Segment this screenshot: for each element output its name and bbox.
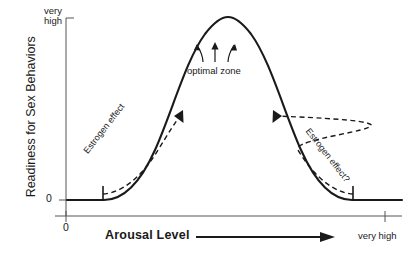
x-axis-zero-label: 0 bbox=[63, 222, 69, 233]
y-axis-top-label-line2: high bbox=[44, 15, 62, 26]
estrogen-left-arrowhead bbox=[174, 110, 184, 123]
estrogen-left-dashed-path bbox=[103, 116, 180, 194]
optimal-zone-arrows bbox=[194, 42, 237, 62]
bell-curve-figure: Readiness for Sex Behaviors very high 0 … bbox=[0, 0, 411, 253]
x-axis-high-label: very high bbox=[358, 231, 397, 241]
x-axis-arrow-head bbox=[320, 232, 335, 242]
estrogen-right-arrowhead bbox=[273, 110, 283, 123]
x-axis-title: Arousal Level bbox=[105, 229, 190, 243]
y-axis-top-label: very high bbox=[32, 6, 62, 27]
y-axis-zero-label: 0 bbox=[46, 193, 52, 204]
optimal-zone-label: optimal zone bbox=[187, 66, 241, 76]
chart-canvas bbox=[0, 0, 411, 253]
optimal-zone-arrow-mid-head bbox=[211, 42, 218, 50]
optimal-zone-arrow-left-head bbox=[194, 44, 201, 51]
x-axis-direction-arrow bbox=[196, 232, 335, 242]
y-axis-title: Readiness for Sex Behaviors bbox=[25, 7, 39, 227]
